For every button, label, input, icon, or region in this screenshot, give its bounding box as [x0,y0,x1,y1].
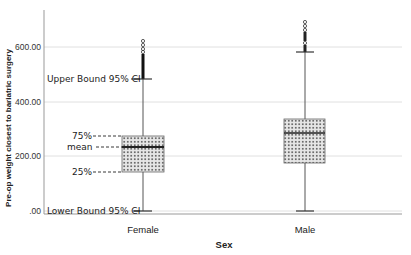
gridlines [44,47,402,211]
y-tick-200: 200.00 [15,151,41,161]
y-tick-600: 600.00 [15,42,41,52]
y-tick-labels: 600.00 400.00 200.00 .00 [15,42,41,216]
y-axis-label: Pre-op weight closest to bariatric surge… [4,49,13,207]
iqr-box-male [284,119,325,163]
x-category-female: Female [127,224,159,235]
axes [44,10,402,214]
y-tick-400: 400.00 [15,97,41,107]
y-tick-0: .00 [29,206,41,216]
outliers-male [303,20,306,52]
box-female [122,39,164,211]
annotation-75pct: 75% [72,131,92,141]
box-male [284,20,325,211]
x-axis-label: Sex [216,239,234,250]
annotation-25pct: 25% [72,167,92,177]
outliers-female [141,39,144,79]
iqr-box-female [122,136,164,172]
annotation-upper-bound: Upper Bound 95% CI [47,74,141,84]
x-category-male: Male [295,224,316,235]
annotation-lower-bound: Lower Bound 95% CI [47,206,140,216]
annotation-mean: mean [67,142,93,152]
boxplot-chart: 600.00 400.00 200.00 .00 Pre-op weight c… [0,0,411,255]
